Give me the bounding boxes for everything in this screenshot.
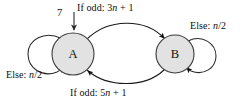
edge-b-to-a-label: If odd: 5n + 1 xyxy=(70,88,127,98)
state-node-b-label: B xyxy=(171,47,179,61)
input-value-label: 7 xyxy=(57,8,62,19)
edge-b-self-loop-label-suffix: /2 xyxy=(218,20,226,31)
edge-a-self-loop-label-suffix: /2 xyxy=(34,69,42,80)
edge-a-self-loop-label-prefix: Else: xyxy=(6,69,29,80)
edge-b-to-a xyxy=(88,70,165,84)
state-node-a-label: A xyxy=(68,47,77,61)
edge-a-to-b xyxy=(86,23,165,40)
edge-a-self-loop-label: Else: n/2 xyxy=(6,70,42,80)
edge-a-to-b-label: If odd: 3n + 1 xyxy=(77,3,134,13)
state-machine-diagram: A B 7 If odd: 3n + 1 If odd: 5n + 1 Else… xyxy=(0,0,241,103)
edge-a-to-b-label-suffix: + 1 xyxy=(117,2,133,13)
edge-b-self-loop-label-prefix: Else: xyxy=(190,20,213,31)
edge-b-to-a-label-prefix: If odd: 5 xyxy=(70,87,105,98)
edge-a-to-b-label-prefix: If odd: 3 xyxy=(77,2,112,13)
edge-b-to-a-label-suffix: + 1 xyxy=(110,87,126,98)
edge-b-self-loop-label: Else: n/2 xyxy=(190,21,226,31)
